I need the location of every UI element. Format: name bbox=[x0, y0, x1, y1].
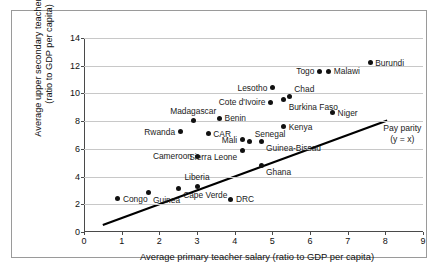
y-tick-label: 8 bbox=[75, 116, 80, 126]
data-point-label: Guinea bbox=[153, 195, 180, 204]
data-point-label: Chad bbox=[294, 85, 314, 94]
x-tick-mark bbox=[423, 232, 424, 235]
data-point-label: Benin bbox=[225, 114, 246, 123]
data-point[interactable] bbox=[259, 139, 264, 144]
data-point-label: Cote d'Ivoire bbox=[219, 98, 266, 107]
y-tick-mark bbox=[81, 38, 84, 39]
data-point-label: Liberia bbox=[184, 173, 209, 182]
x-tick-mark bbox=[197, 232, 198, 235]
gridline-y bbox=[84, 38, 423, 39]
data-point[interactable] bbox=[217, 116, 222, 121]
x-tick-mark bbox=[272, 232, 273, 235]
y-tick-mark bbox=[81, 66, 84, 67]
x-tick-mark bbox=[385, 232, 386, 235]
data-point-label: Senegal bbox=[255, 130, 286, 139]
x-tick-mark bbox=[235, 232, 236, 235]
pay-parity-annotation: Pay parity (y = x) bbox=[383, 123, 421, 145]
data-point[interactable] bbox=[268, 100, 273, 105]
y-tick-mark bbox=[81, 177, 84, 178]
data-point-label: DRC bbox=[236, 195, 254, 204]
x-tick-label: 5 bbox=[270, 236, 275, 246]
data-point[interactable] bbox=[240, 148, 245, 153]
pay-parity-equation: (y = x) bbox=[383, 134, 421, 145]
x-tick-label: 3 bbox=[194, 236, 199, 246]
data-point[interactable] bbox=[259, 163, 264, 168]
x-tick-label: 6 bbox=[307, 236, 312, 246]
data-point-label: Burundi bbox=[375, 58, 404, 67]
data-point-label: Kenya bbox=[289, 122, 313, 131]
x-tick-mark bbox=[159, 232, 160, 235]
x-tick-label: 0 bbox=[81, 236, 86, 246]
gridline-y bbox=[84, 149, 423, 150]
x-tick-label: 4 bbox=[232, 236, 237, 246]
data-point-label: CAR bbox=[213, 129, 231, 138]
gridline-y bbox=[84, 177, 423, 178]
data-point[interactable] bbox=[146, 190, 151, 195]
x-axis-title: Average primary teacher salary (ratio to… bbox=[72, 251, 438, 262]
data-point-label: Burkina Faso bbox=[289, 102, 338, 111]
figure-frame: Average upper secondary teacher salary (… bbox=[11, 10, 427, 258]
x-tick-label: 8 bbox=[383, 236, 388, 246]
y-tick-label: 2 bbox=[75, 199, 80, 209]
plot-area: Pay parity (y = x) 024681012140123456789… bbox=[84, 38, 423, 232]
gridline-y bbox=[84, 66, 423, 67]
y-axis-title: Average upper secondary teacher salary (… bbox=[31, 0, 57, 152]
y-tick-label: 0 bbox=[75, 227, 80, 237]
gridline-y bbox=[84, 204, 423, 205]
data-point-label: Rwanda bbox=[144, 127, 175, 136]
pay-parity-label: Pay parity bbox=[383, 123, 421, 134]
x-tick-label: 7 bbox=[345, 236, 350, 246]
data-point-label: Ghana bbox=[266, 168, 291, 177]
data-point-label: Niger bbox=[338, 108, 358, 117]
figure-root: Average upper secondary teacher salary (… bbox=[0, 0, 438, 271]
data-point[interactable] bbox=[317, 69, 322, 74]
y-tick-mark bbox=[81, 93, 84, 94]
gridline-y bbox=[84, 121, 423, 122]
y-tick-label: 4 bbox=[75, 172, 80, 182]
y-tick-label: 12 bbox=[70, 61, 80, 71]
y-tick-label: 10 bbox=[70, 88, 80, 98]
gridline-y bbox=[84, 93, 423, 94]
data-point-label: Madagascar bbox=[170, 107, 216, 116]
y-tick-label: 6 bbox=[75, 144, 80, 154]
data-point[interactable] bbox=[178, 129, 183, 134]
data-point-label: Malawi bbox=[334, 67, 360, 76]
data-point-label: Lesotho bbox=[238, 83, 268, 92]
data-point[interactable] bbox=[287, 94, 292, 99]
data-point-label: Congo bbox=[123, 194, 148, 203]
x-tick-label: 1 bbox=[119, 236, 124, 246]
y-axis-title-line2: (ratio to GDP per capita) bbox=[44, 4, 55, 103]
data-point[interactable] bbox=[191, 118, 196, 123]
x-tick-mark bbox=[122, 232, 123, 235]
y-tick-mark bbox=[81, 121, 84, 122]
x-tick-mark bbox=[348, 232, 349, 235]
x-tick-mark bbox=[84, 232, 85, 235]
y-axis-title-line1: Average upper secondary teacher salary bbox=[33, 0, 44, 137]
data-point-label: Cameroon bbox=[153, 152, 192, 161]
data-point-label: Sierra Leone bbox=[189, 153, 237, 162]
y-tick-mark bbox=[81, 204, 84, 205]
y-tick-mark bbox=[81, 149, 84, 150]
data-point-label: Guinea-Bissau bbox=[266, 144, 321, 153]
x-tick-mark bbox=[310, 232, 311, 235]
x-tick-label: 2 bbox=[157, 236, 162, 246]
y-tick-label: 14 bbox=[70, 33, 80, 43]
data-point-label: Cape Verde bbox=[183, 191, 227, 200]
data-point[interactable] bbox=[247, 139, 252, 144]
x-tick-label: 9 bbox=[420, 236, 425, 246]
data-point-label: Togo bbox=[296, 67, 314, 76]
data-point[interactable] bbox=[206, 131, 211, 136]
data-point[interactable] bbox=[195, 184, 200, 189]
data-point[interactable] bbox=[176, 186, 181, 191]
